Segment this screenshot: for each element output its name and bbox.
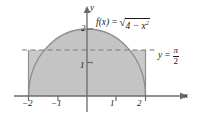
function-label: f(x) = √ 4 − x2 (96, 18, 150, 32)
x-tick-label-pos1: 1 (110, 99, 115, 108)
level-label-y: y (158, 51, 162, 61)
fraction-numerator: π (173, 46, 180, 55)
y-tick-label-1: 1 (80, 61, 85, 70)
function-name: f(x) (96, 18, 109, 28)
level-label-equals: = (165, 51, 170, 61)
x-tick-label-neg2: −2 (22, 99, 33, 108)
y-axis-label: y (90, 3, 94, 12)
radicand-base: 4 − x (126, 21, 146, 31)
radicand: 4 − x2 (125, 18, 150, 32)
y-tick-label-2: 2 (81, 24, 86, 33)
x-tick-label-pos2: 2 (137, 99, 142, 108)
function-equals: = (112, 18, 117, 28)
square-root-expression: √ 4 − x2 (120, 18, 150, 32)
math-figure: f(x) = √ 4 − x2 y = π 2 −2 −1 1 2 1 2 x … (0, 0, 197, 124)
radicand-exponent: 2 (146, 19, 149, 26)
level-line-label: y = π 2 (158, 46, 179, 66)
x-tick-label-neg1: −1 (51, 99, 62, 108)
pi-over-2-fraction: π 2 (173, 46, 180, 66)
fraction-denominator: 2 (173, 57, 180, 66)
x-axis-label: x (184, 91, 188, 100)
